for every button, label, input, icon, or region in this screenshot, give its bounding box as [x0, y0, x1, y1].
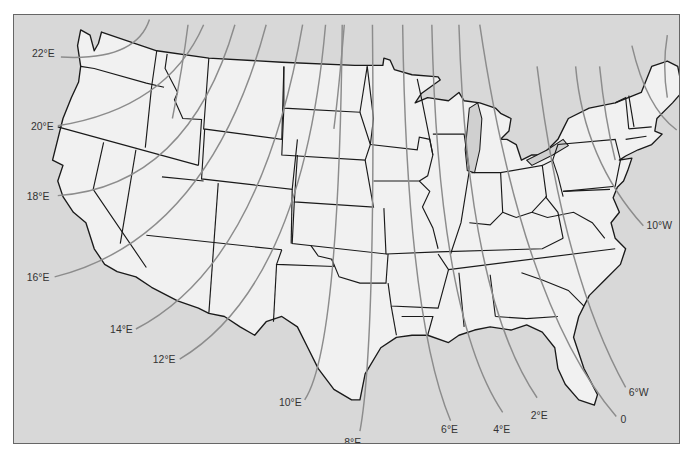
isogonic-label-16e: 16°E	[27, 272, 50, 283]
isogonic-label-10e: 10°E	[279, 397, 302, 408]
isogonic-label-6w: 6°W	[629, 387, 649, 398]
us-landmass	[53, 30, 680, 405]
isogonic-label-8e: 8°E	[344, 437, 361, 444]
isogonic-label-18e: 18°E	[27, 191, 50, 202]
isogonic-label-22e: 22°E	[32, 48, 55, 59]
isogonic-label-4e: 4°E	[493, 424, 510, 435]
isogonic-label-2e: 2°E	[531, 410, 548, 421]
isogonic-label-0: 0	[620, 414, 626, 425]
isogonic-label-6e: 6°E	[441, 424, 458, 435]
isogonic-label-14e: 14°E	[110, 324, 133, 335]
declination-map: 22°E20°E18°E16°E14°E12°E10°E8°E6°E4°E2°E…	[13, 14, 680, 444]
isogonic-label-10w: 10°W	[646, 220, 672, 231]
isogonic-label-20e: 20°E	[31, 121, 54, 132]
isogonic-label-12e: 12°E	[153, 354, 176, 365]
map-canvas: 22°E20°E18°E16°E14°E12°E10°E8°E6°E4°E2°E…	[14, 15, 680, 444]
